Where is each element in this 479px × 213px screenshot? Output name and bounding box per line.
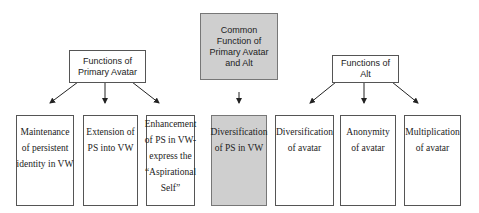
leaf-anonymity-avatar: Anonymity of avatar bbox=[340, 115, 396, 206]
common-title-line-2: Function of bbox=[217, 36, 262, 47]
common-title-line-1: Common bbox=[221, 25, 258, 36]
leaf-text: Enhancement bbox=[145, 116, 197, 132]
leaf-text: of avatar bbox=[288, 140, 322, 156]
leaf-text: of avatar bbox=[416, 140, 450, 156]
leaf-extension-ps: Extension of PS into VW bbox=[83, 115, 138, 206]
leaf-text: of PS in VW- bbox=[145, 132, 196, 148]
leaf-text: express the bbox=[149, 148, 191, 164]
leaf-text: PS into VW bbox=[88, 140, 134, 156]
common-title-line-3: Primary Avatar bbox=[210, 47, 269, 58]
alt-functions-box: Functions of Alt bbox=[332, 55, 399, 83]
leaf-text: Self” bbox=[161, 180, 181, 196]
leaf-text: Diversification bbox=[276, 124, 333, 140]
leaf-text: of avatar bbox=[351, 140, 385, 156]
common-function-box: Common Function of Primary Avatar and Al… bbox=[200, 13, 278, 80]
leaf-enhancement-ps: Enhancement of PS in VW- express the “As… bbox=[146, 115, 195, 206]
leaf-text: Diversification bbox=[211, 124, 268, 140]
leaf-diversification-avatar: Diversification of avatar bbox=[275, 115, 334, 206]
leaf-text: Maintenance bbox=[20, 124, 69, 140]
leaf-text: “Aspirational bbox=[145, 164, 196, 180]
common-title-line-4: and Alt bbox=[225, 58, 253, 69]
leaf-text: identity in VW bbox=[17, 156, 74, 172]
leaf-text: of persistent bbox=[22, 140, 69, 156]
leaf-text: Multiplication bbox=[405, 124, 459, 140]
leaf-multiplication-avatar: Multiplication of avatar bbox=[404, 115, 461, 206]
leaf-diversification-ps: Diversification of PS in VW bbox=[211, 115, 267, 206]
alt-title-line-2: Alt bbox=[360, 69, 371, 80]
leaf-text: Extension of bbox=[86, 124, 134, 140]
primary-title-line-2: Primary Avatar bbox=[78, 67, 137, 78]
leaf-text: Anonymity bbox=[346, 124, 389, 140]
primary-title-line-1: Functions of bbox=[83, 56, 132, 67]
leaf-maintenance-identity: Maintenance of persistent identity in VW bbox=[16, 115, 74, 206]
alt-title-line-1: Functions of bbox=[341, 58, 390, 69]
leaf-text: of PS in VW bbox=[215, 140, 264, 156]
primary-avatar-functions-box: Functions of Primary Avatar bbox=[69, 50, 146, 83]
